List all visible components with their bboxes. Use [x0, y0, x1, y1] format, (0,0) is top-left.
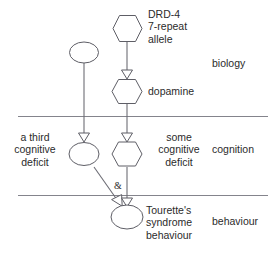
layer-label-behaviour: behaviour: [212, 215, 276, 227]
node-tourettes-syndrome-behaviour-ellipse[interactable]: [111, 205, 143, 229]
causal-layer-diagram: DRD-4 7-repeat allele dopamine a third c…: [0, 0, 278, 263]
arrowhead-dopamine-to-some-deficit: [122, 133, 133, 142]
arrowhead-drd4-to-dopamine: [122, 70, 133, 79]
node-label-some-cognitive-deficit: some cognitive deficit: [148, 131, 210, 168]
junction-and-symbol: &: [114, 180, 122, 191]
node-label-dopamine: dopamine: [148, 85, 228, 97]
node-label-tourettes-syndrome-behaviour: Tourette's syndrome behaviour: [146, 204, 222, 241]
node-third-cognitive-deficit-ellipse[interactable]: [69, 143, 99, 166]
node-label-third-cognitive-deficit: a third cognitive deficit: [4, 131, 66, 168]
node-label-drd4: DRD-4 7-repeat allele: [148, 8, 222, 45]
node-unlabelled-biology-ellipse[interactable]: [70, 42, 99, 63]
node-drd4-hexagon[interactable]: [113, 16, 142, 42]
arrowhead-unlabelled-to-third-deficit: [79, 133, 90, 142]
node-some-cognitive-deficit-hexagon[interactable]: [112, 142, 142, 166]
arrowhead-third-deficit-to-tourettes: [112, 195, 123, 207]
node-dopamine-hexagon[interactable]: [112, 80, 142, 104]
layer-label-biology: biology: [212, 57, 276, 69]
layer-label-cognition: cognition: [212, 143, 276, 155]
